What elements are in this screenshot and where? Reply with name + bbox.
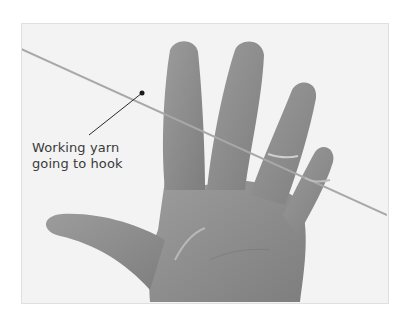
middle-finger xyxy=(207,42,264,190)
annotation-dot xyxy=(140,91,145,96)
annotation-label: Working yarn going to hook xyxy=(32,140,123,172)
annotation-line-1: Working yarn xyxy=(32,140,123,156)
thumb xyxy=(46,214,165,290)
annotation-line-2: going to hook xyxy=(32,156,123,172)
annotation-leader xyxy=(89,93,142,135)
